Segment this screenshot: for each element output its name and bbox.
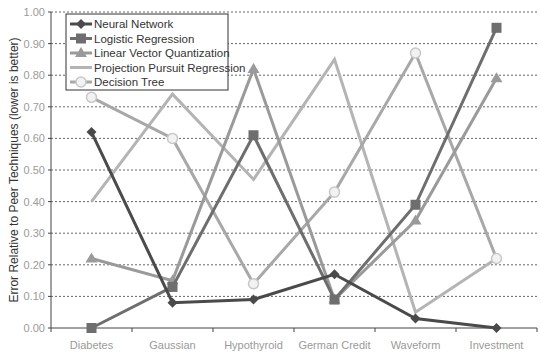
- square-marker: [249, 130, 259, 140]
- circle-marker: [76, 77, 86, 87]
- square-marker: [76, 34, 86, 44]
- y-tick-label: 0.90: [24, 38, 45, 50]
- legend-label: Logistic Regression: [94, 33, 194, 45]
- y-tick-label: 0.50: [24, 164, 45, 176]
- x-tick-label: Diabetes: [70, 339, 114, 351]
- y-tick-label: 1.00: [24, 6, 45, 18]
- legend-item: Projection Pursuit Regression: [70, 62, 246, 74]
- square-marker: [330, 295, 340, 305]
- series-linear-vector-quantization: [86, 63, 503, 304]
- square-marker: [492, 23, 502, 33]
- x-tick-label: German Credit: [298, 339, 370, 351]
- legend-label: Projection Pursuit Regression: [94, 62, 246, 74]
- x-tick-label: Waveform: [391, 339, 441, 351]
- diamond-marker: [87, 127, 97, 137]
- y-tick-label: 0.40: [24, 196, 45, 208]
- circle-marker: [87, 92, 97, 102]
- circle-marker: [168, 133, 178, 143]
- y-tick-label: 0.80: [24, 69, 45, 81]
- y-tick-label: 0.30: [24, 227, 45, 239]
- x-tick-label: Gaussian: [149, 339, 195, 351]
- legend-item: Decision Tree: [70, 76, 164, 88]
- x-tick-label: Hypothyroid: [224, 339, 283, 351]
- circle-marker: [411, 48, 421, 58]
- circle-marker: [492, 253, 502, 263]
- y-tick-label: 0.10: [24, 290, 45, 302]
- diamond-marker: [168, 298, 178, 308]
- series-neural-network: [87, 127, 502, 333]
- y-tick-label: 0.00: [24, 322, 45, 334]
- diamond-marker: [492, 323, 502, 333]
- x-axis: DiabetesGaussianHypothyroidGerman Credit…: [51, 328, 537, 351]
- legend-item: Linear Vector Quantization: [70, 47, 230, 59]
- y-tick-label: 0.70: [24, 101, 45, 113]
- legend-label: Decision Tree: [94, 76, 164, 88]
- square-marker: [87, 323, 97, 333]
- legend-label: Neural Network: [94, 18, 173, 30]
- triangle-marker: [86, 252, 98, 262]
- legend: Neural NetworkLogistic RegressionLinear …: [66, 14, 246, 90]
- square-marker: [168, 282, 178, 292]
- y-tick-label: 0.60: [24, 132, 45, 144]
- triangle-marker: [491, 72, 503, 82]
- y-axis: 0.000.100.200.300.400.500.600.700.800.90…: [24, 6, 51, 334]
- circle-marker: [330, 187, 340, 197]
- legend-label: Linear Vector Quantization: [94, 47, 230, 59]
- circle-marker: [249, 279, 259, 289]
- square-marker: [411, 200, 421, 210]
- x-tick-label: Investment: [470, 339, 524, 351]
- line-chart: 0.000.100.200.300.400.500.600.700.800.90…: [0, 0, 540, 353]
- y-tick-label: 0.20: [24, 259, 45, 271]
- triangle-marker: [248, 63, 260, 73]
- y-axis-label: Error Relative to Peer Techniques (lower…: [7, 37, 21, 302]
